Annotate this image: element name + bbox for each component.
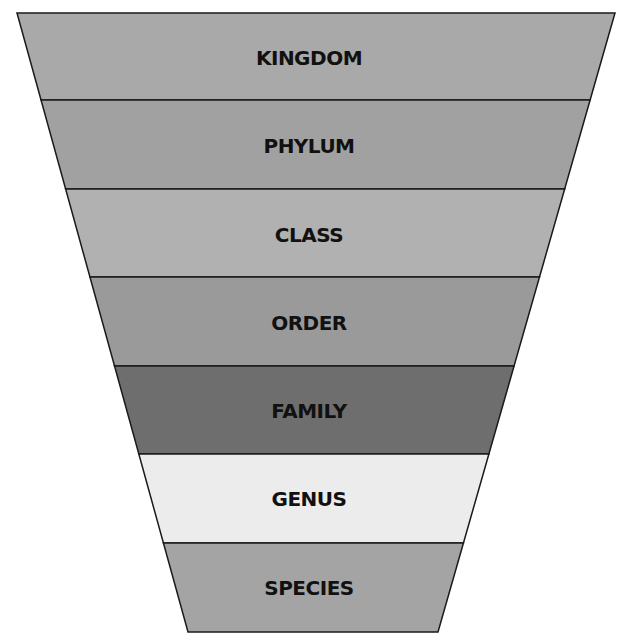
band-class	[66, 189, 565, 277]
band-order	[90, 277, 540, 366]
band-species	[163, 543, 463, 632]
band-kingdom	[17, 13, 615, 100]
band-genus	[139, 454, 489, 543]
funnel-shape	[0, 0, 618, 640]
band-phylum	[41, 100, 590, 189]
band-family	[115, 366, 515, 454]
taxonomy-funnel-diagram: KINGDOM PHYLUM CLASS ORDER FAMILY GENUS …	[0, 0, 618, 640]
